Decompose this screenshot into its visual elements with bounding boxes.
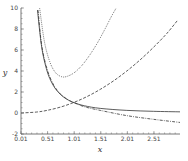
line-chart: -20246810 0.010.511.011.512.012.51 x y: [0, 0, 188, 161]
x-tick-label: 1.01: [67, 135, 81, 142]
x-axis: 0.010.511.011.512.012.51: [14, 131, 180, 142]
y-axis-label: y: [2, 68, 8, 77]
x-axis-label: x: [98, 145, 103, 154]
y-tick-label: 4: [14, 67, 18, 74]
series-dotted: [40, 8, 117, 77]
x-tick-label: 2.51: [147, 135, 161, 142]
x-tick-label: 2.01: [121, 135, 135, 142]
y-tick-label: 0: [14, 109, 18, 116]
y-tick-label: 8: [14, 25, 18, 32]
y-tick-label: 2: [14, 88, 18, 95]
y-tick-label: 10: [10, 4, 18, 11]
x-tick-label: 1.51: [94, 135, 108, 142]
x-tick-label: 0.01: [14, 135, 28, 142]
x-tick-label: 0.51: [41, 135, 55, 142]
series-solid: [37, 10, 180, 112]
plot-series: [21, 8, 180, 122]
series-dashed: [21, 21, 177, 113]
y-axis: -20246810: [10, 4, 24, 137]
series-dash-dot: [38, 10, 180, 122]
y-tick-label: 6: [14, 46, 18, 53]
